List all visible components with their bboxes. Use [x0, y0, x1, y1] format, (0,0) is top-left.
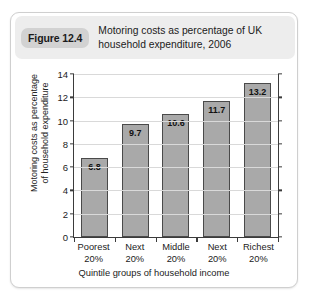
- x-axis-category-label-line: 20%: [155, 254, 196, 266]
- y-axis-tick-mark: [70, 190, 74, 191]
- y-axis-tick-mark-right: [278, 143, 282, 144]
- bar-slot: 11.7: [196, 74, 237, 237]
- y-axis-tick-mark-right: [278, 120, 282, 121]
- gridline: [74, 214, 278, 215]
- gridline: [74, 190, 278, 191]
- y-axis-title-line-2: of household expenditure: [40, 82, 51, 183]
- bar[interactable]: 9.7: [122, 124, 149, 237]
- x-axis-category-label: Next20%: [197, 242, 238, 265]
- bar-value-label: 13.2: [245, 87, 270, 97]
- x-axis-category-label-line: Poorest: [73, 242, 114, 254]
- x-axis-category-label-line: 20%: [73, 254, 114, 266]
- figure-title-line-1: Motoring costs as percentage of UK: [98, 24, 295, 37]
- figure-header: Figure 12.4 Motoring costs as percentage…: [15, 16, 295, 59]
- x-axis-category-label-line: 20%: [114, 254, 155, 266]
- x-axis-category-label: Next20%: [114, 242, 155, 265]
- x-axis-category-label-line: Next: [114, 242, 155, 254]
- gridline: [74, 74, 278, 75]
- bar-series: 6.89.710.611.713.2: [74, 74, 278, 237]
- y-axis-tick-mark-right: [278, 97, 282, 98]
- gridline: [74, 167, 278, 168]
- bar[interactable]: 10.6: [162, 114, 189, 237]
- y-axis-tick-mark: [70, 73, 74, 74]
- y-axis-tick-mark-right: [278, 73, 282, 74]
- bar-slot: 6.8: [74, 74, 115, 237]
- plot-area: 6.89.710.611.713.2 02468101214: [73, 74, 279, 238]
- bar-slot: 10.6: [156, 74, 197, 237]
- y-axis-tick-mark-right: [278, 166, 282, 167]
- y-axis-tick-label: 8: [63, 138, 68, 149]
- y-axis-tick-label: 6: [63, 162, 68, 173]
- y-axis-tick-mark: [70, 213, 74, 214]
- bar-value-label: 9.7: [123, 128, 148, 138]
- figure-card: Figure 12.4 Motoring costs as percentage…: [10, 12, 298, 288]
- y-axis-tick-label: 0: [63, 232, 68, 243]
- gridline: [74, 121, 278, 122]
- bar-slot: 13.2: [237, 74, 278, 237]
- bar-chart: Motoring costs as percentage of househol…: [11, 62, 297, 287]
- y-axis-title-line-1: Motoring costs as percentage: [29, 74, 40, 192]
- y-axis-tick-mark: [70, 143, 74, 144]
- gridline: [74, 97, 278, 98]
- bar[interactable]: 6.8: [81, 158, 108, 237]
- x-axis-category-label: Poorest20%: [73, 242, 114, 265]
- y-axis-tick-mark: [70, 120, 74, 121]
- y-axis-title: Motoring costs as percentage of househol…: [27, 58, 53, 208]
- x-axis-category-label-line: Richest: [238, 242, 279, 254]
- y-axis-tick-mark-right: [278, 213, 282, 214]
- x-axis-category-label-line: 20%: [197, 254, 238, 266]
- y-axis-tick-label: 4: [63, 185, 68, 196]
- x-axis-category-label-line: Next: [197, 242, 238, 254]
- gridline: [74, 144, 278, 145]
- figure-title: Motoring costs as percentage of UK house…: [98, 24, 295, 50]
- bar-value-label: 10.6: [163, 118, 188, 128]
- bar-value-label: 11.7: [204, 105, 229, 115]
- y-axis-tick-label: 12: [57, 92, 68, 103]
- y-axis-tick-label: 2: [63, 208, 68, 219]
- figure-title-line-2: household expenditure, 2006: [98, 38, 295, 51]
- x-axis-category-label: Richest20%: [238, 242, 279, 265]
- y-axis-tick-mark: [70, 166, 74, 167]
- x-axis-category-label: Middle20%: [155, 242, 196, 265]
- x-axis-category-label-line: Middle: [155, 242, 196, 254]
- x-axis-category-label-line: 20%: [238, 254, 279, 266]
- y-axis-tick-label: 10: [57, 115, 68, 126]
- y-axis-tick-mark: [70, 97, 74, 98]
- figure-number-badge: Figure 12.4: [21, 28, 89, 48]
- y-axis-tick-label: 14: [57, 69, 68, 80]
- y-axis-tick-mark-right: [278, 190, 282, 191]
- x-axis-tick-labels: Poorest20%Next20%Middle20%Next20%Richest…: [73, 242, 279, 265]
- x-axis-title: Quintile groups of household income: [11, 268, 297, 278]
- bar-slot: 9.7: [115, 74, 156, 237]
